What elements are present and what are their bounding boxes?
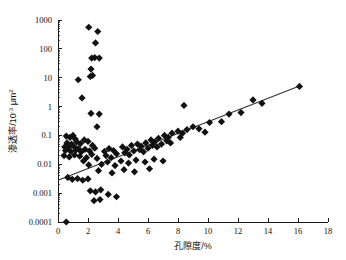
- x-tick-label: 14: [264, 226, 273, 236]
- data-point-marker: [159, 157, 166, 164]
- data-point-marker: [132, 156, 139, 163]
- data-point-marker: [225, 110, 232, 117]
- x-tick-label: 16: [294, 226, 303, 236]
- data-point-marker: [111, 162, 118, 169]
- data-point-marker: [92, 39, 99, 46]
- data-point-marker: [75, 76, 82, 83]
- y-tick-label: 0.0001: [29, 217, 52, 227]
- y-tick-label: 1000: [35, 15, 52, 25]
- data-point-marker: [131, 168, 138, 175]
- data-point-marker: [87, 65, 94, 72]
- x-axis-title-text: 孔隙度/%: [174, 240, 212, 251]
- x-tick-label: 12: [234, 226, 243, 236]
- data-point-marker: [249, 96, 256, 103]
- data-point-marker: [90, 197, 97, 204]
- data-point-marker: [84, 175, 91, 182]
- x-tick-label: 4: [116, 226, 121, 236]
- x-tick-label: 6: [146, 226, 150, 236]
- data-point-marker: [96, 110, 103, 117]
- y-tick-label: 0.001: [33, 188, 52, 198]
- data-point-marker: [78, 94, 85, 101]
- data-point-marker: [180, 102, 187, 109]
- y-axis-title-text: 渗透率/10-3 μm2: [7, 89, 18, 153]
- x-axis-title: 孔隙度/%: [174, 240, 212, 251]
- data-point-marker: [96, 54, 103, 61]
- data-point-marker: [141, 158, 148, 165]
- data-point-marker: [63, 218, 70, 225]
- data-point-marker: [108, 169, 115, 176]
- data-point-marker: [120, 166, 127, 173]
- data-point-marker: [93, 123, 100, 130]
- y-tick-label: 100: [39, 44, 52, 54]
- chart-canvas: 0.00010.0010.010.11101001000 02468101214…: [0, 0, 346, 260]
- y-axis-title: 渗透率/10-3 μm2: [7, 89, 18, 153]
- data-point-marker: [87, 187, 94, 194]
- data-point-marker: [218, 118, 225, 125]
- data-point-marker: [95, 167, 102, 174]
- data-point-marker: [146, 165, 153, 172]
- data-point-marker: [96, 196, 103, 203]
- data-point-marker: [113, 193, 120, 200]
- data-point-marker: [93, 155, 100, 162]
- y-tick-label: 0.01: [37, 159, 52, 169]
- data-points: [60, 24, 303, 226]
- x-tick-label: 10: [204, 226, 213, 236]
- x-tick-label: 8: [176, 226, 180, 236]
- data-point-marker: [85, 24, 92, 31]
- data-point-marker: [150, 156, 157, 163]
- x-tick-label: 2: [86, 226, 90, 236]
- x-tick-label: 18: [324, 226, 333, 236]
- data-point-marker: [296, 83, 303, 90]
- data-point-marker: [105, 191, 112, 198]
- scatter-chart: 0.00010.0010.010.11101001000 02468101214…: [0, 0, 346, 260]
- data-point-marker: [117, 157, 124, 164]
- y-tick-label: 10: [44, 73, 53, 83]
- data-point-marker: [87, 110, 94, 117]
- data-point-marker: [201, 129, 208, 136]
- data-point-marker: [189, 123, 196, 130]
- y-axis-ticks: 0.00010.0010.010.11101001000: [29, 15, 62, 227]
- x-axis-ticks: 024681012141618: [56, 218, 332, 236]
- y-tick-label: 0.1: [41, 130, 52, 140]
- x-tick-label: 0: [56, 226, 60, 236]
- data-point-marker: [258, 100, 265, 107]
- y-tick-label: 1: [48, 102, 52, 112]
- data-point-marker: [94, 28, 101, 35]
- data-point-marker: [125, 159, 132, 166]
